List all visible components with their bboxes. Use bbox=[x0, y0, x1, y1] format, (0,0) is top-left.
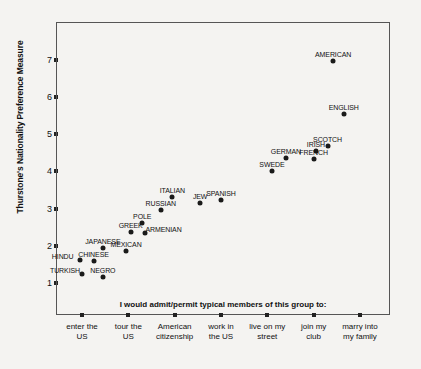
data-point bbox=[100, 275, 105, 280]
x-tick-mark bbox=[312, 313, 316, 317]
x-tick-mark bbox=[219, 313, 223, 317]
data-point bbox=[218, 198, 223, 203]
y-tick-label: 3 bbox=[36, 204, 52, 214]
x-tick-mark bbox=[173, 313, 177, 317]
x-tick-label-line: marry into bbox=[325, 322, 395, 332]
data-point bbox=[128, 229, 133, 234]
data-point-label: ARMENIAN bbox=[145, 225, 181, 232]
y-axis-title: Thurstone's Nationality Preference Measu… bbox=[15, 7, 25, 247]
data-point-label: RUSSIAN bbox=[146, 200, 176, 207]
scatter-chart: Thurstone's Nationality Preference Measu… bbox=[0, 0, 421, 369]
data-point bbox=[140, 220, 145, 225]
data-point bbox=[77, 257, 82, 262]
data-point-label: HINDU bbox=[52, 252, 74, 259]
y-tick-label: 7 bbox=[36, 55, 52, 65]
data-point-label: GERMAN bbox=[271, 148, 301, 155]
x-tick-label: marry intomy family bbox=[325, 322, 395, 342]
data-point bbox=[198, 201, 203, 206]
data-point-label: ITALIAN bbox=[160, 187, 185, 194]
data-point bbox=[331, 58, 336, 63]
y-tick-label: 2 bbox=[36, 241, 52, 251]
x-tick-mark bbox=[80, 313, 84, 317]
data-point-label: ENGLISH bbox=[329, 103, 359, 110]
y-tick-label: 1 bbox=[36, 278, 52, 288]
data-point bbox=[170, 195, 175, 200]
data-point-label: SCOTCH bbox=[313, 136, 342, 143]
x-tick-mark bbox=[358, 313, 362, 317]
x-tick-label-line: my family bbox=[325, 332, 395, 342]
data-point-label: AMERICAN bbox=[315, 50, 351, 57]
data-point-label: SWEDE bbox=[259, 161, 284, 168]
data-point bbox=[283, 156, 288, 161]
data-point-label: CHINESE bbox=[78, 250, 108, 257]
data-point bbox=[124, 249, 129, 254]
data-point bbox=[100, 245, 105, 250]
x-axis-title: I would admit/permit typical members of … bbox=[56, 300, 390, 309]
data-point-label: MEXICAN bbox=[110, 241, 141, 248]
y-tick-label: 5 bbox=[36, 129, 52, 139]
data-point-label: NEGRO bbox=[90, 267, 115, 274]
data-point bbox=[80, 271, 85, 276]
data-point-label: JEW bbox=[193, 193, 207, 200]
data-point bbox=[158, 208, 163, 213]
x-tick-mark bbox=[265, 313, 269, 317]
data-point bbox=[311, 157, 316, 162]
y-tick-label: 4 bbox=[36, 166, 52, 176]
data-point-label: FRENCH bbox=[299, 149, 328, 156]
data-point-label: SPANISH bbox=[206, 190, 236, 197]
data-point-label: TURKISH bbox=[50, 266, 80, 273]
y-tick-label: 6 bbox=[36, 92, 52, 102]
data-point bbox=[341, 111, 346, 116]
data-point bbox=[269, 169, 274, 174]
data-point bbox=[91, 258, 96, 263]
data-point-label: POLE bbox=[133, 212, 151, 219]
x-tick-mark bbox=[126, 313, 130, 317]
